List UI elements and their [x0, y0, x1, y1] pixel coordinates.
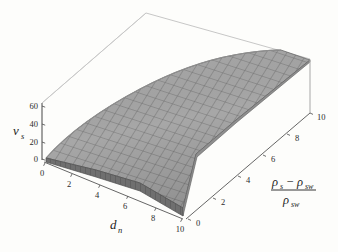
- surface-plot-figure: 60 40 20 0 v s 0 2 4 6 8 10: [0, 0, 338, 252]
- y-tick-label-0: 0: [196, 218, 200, 228]
- y-axis-label-numerator-rho-s: ρ: [271, 175, 278, 189]
- y-tick-label-2: 2: [221, 197, 225, 207]
- y-axis-label-denominator-sub: sw: [291, 200, 300, 209]
- x-tick-label-6: 6: [123, 201, 127, 211]
- x-tick-label-10: 10: [176, 224, 185, 234]
- y-tick-label-6: 6: [271, 154, 275, 164]
- y-tick-label-10: 10: [317, 112, 326, 122]
- y-axis-label-denominator-rho: ρ: [282, 193, 289, 207]
- z-tick-label-60: 60: [30, 101, 39, 111]
- z-tick-label-20: 20: [30, 137, 39, 147]
- z-tick-label-0: 0: [34, 154, 38, 164]
- z-tick-label-40: 40: [30, 119, 39, 129]
- plot-canvas: 60 40 20 0 v s 0 2 4 6 8 10: [0, 0, 338, 252]
- y-tick-label-8: 8: [295, 133, 299, 143]
- z-axis-label-base: v: [13, 123, 19, 138]
- x-tick-label-2: 2: [67, 179, 71, 189]
- x-axis-label-subscript: n: [118, 225, 122, 235]
- x-tick-label-0: 0: [40, 168, 44, 178]
- x-tick-label-8: 8: [151, 213, 155, 223]
- y-axis-label-minus-sign: −: [286, 175, 294, 189]
- y-axis-label-numerator-rho-sw: ρ: [296, 175, 303, 189]
- x-axis-label-base: d: [110, 217, 117, 232]
